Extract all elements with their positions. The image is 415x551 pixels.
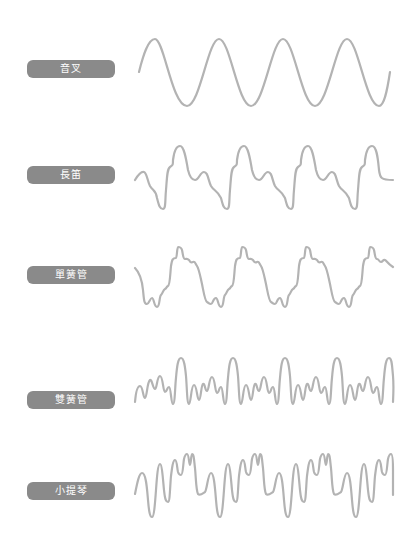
waveform-violin bbox=[0, 0, 415, 551]
